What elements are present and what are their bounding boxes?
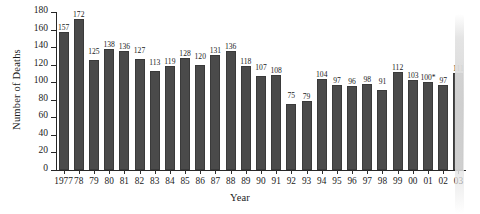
x-tick — [261, 170, 262, 174]
bar-value-label: 100* — [420, 73, 435, 82]
x-tick-label: 91 — [272, 176, 281, 186]
y-tick-label: 60 — [39, 110, 49, 120]
y-tick: 0 — [51, 170, 56, 171]
bar-value-label: 131 — [210, 46, 221, 55]
bar-value-label: 96 — [348, 77, 356, 86]
y-axis-line — [56, 12, 57, 170]
bar-value-label: 112 — [392, 63, 403, 72]
x-tick — [185, 170, 186, 174]
x-tick-label: 00 — [408, 176, 417, 186]
bar: 120 — [195, 65, 205, 170]
bar-value-label: 113 — [149, 58, 160, 67]
bar-value-label: 75 — [288, 91, 296, 100]
x-tick — [200, 170, 201, 174]
bar: 75 — [286, 104, 296, 170]
bar-value-label: 98 — [363, 75, 371, 84]
plot-area: 020406080100120140160180 157172125138136… — [56, 12, 466, 170]
x-tick-label: 85 — [180, 176, 189, 186]
bar-value-label: 157 — [58, 23, 69, 32]
bar-value-label: 97 — [439, 76, 447, 85]
x-tick-label: 1977 — [54, 176, 73, 186]
x-tick-label: 86 — [196, 176, 205, 186]
x-tick-label: 97 — [363, 176, 372, 186]
x-tick-label: 96 — [347, 176, 356, 186]
bar: 96 — [347, 86, 357, 170]
x-tick — [398, 170, 399, 174]
x-tick — [367, 170, 368, 174]
x-tick — [337, 170, 338, 174]
bar-value-label: 104 — [316, 70, 327, 79]
bar: 172 — [74, 19, 84, 170]
y-tick-label: 180 — [34, 5, 48, 15]
bar-value-label: 107 — [255, 63, 266, 72]
x-tick — [124, 170, 125, 174]
x-tick-label: 98 — [378, 176, 387, 186]
x-tick-label: 87 — [211, 176, 220, 186]
x-tick — [170, 170, 171, 174]
bar-value-label: 127 — [134, 46, 145, 55]
x-tick-label: 90 — [256, 176, 265, 186]
bar-value-label: 91 — [379, 77, 387, 86]
bar: 125 — [89, 60, 99, 170]
x-tick-label: 82 — [135, 176, 144, 186]
bar-value-label: 125 — [88, 47, 99, 56]
x-tick — [64, 170, 65, 174]
y-tick: 180 — [51, 12, 56, 13]
x-tick — [352, 170, 353, 174]
x-tick-label: 80 — [104, 176, 113, 186]
y-tick: 140 — [51, 47, 56, 48]
bar-value-label: 172 — [73, 10, 84, 19]
y-tick-label: 160 — [34, 23, 48, 33]
y-tick: 40 — [51, 135, 56, 136]
bar-value-label: 120 — [195, 52, 206, 61]
x-tick — [155, 170, 156, 174]
x-tick-label: 81 — [120, 176, 129, 186]
bar: 119 — [165, 66, 175, 170]
x-tick — [428, 170, 429, 174]
x-tick-label: 89 — [241, 176, 250, 186]
bar: 118 — [241, 66, 251, 170]
y-tick: 120 — [51, 65, 56, 66]
x-tick — [413, 170, 414, 174]
bar-value-label: 103 — [407, 71, 418, 80]
bar: 127 — [135, 59, 145, 170]
y-tick-label: 100 — [34, 75, 48, 85]
x-tick-label: 83 — [150, 176, 159, 186]
bar-value-label: 136 — [119, 42, 130, 51]
x-axis-title: Year — [0, 192, 480, 203]
bar: 97 — [332, 85, 342, 170]
bar-value-label: 118 — [240, 57, 251, 66]
x-tick — [246, 170, 247, 174]
bar-chart-figure: Number of Deaths 02040608010012014016018… — [0, 0, 480, 214]
bar-value-label: 119 — [164, 57, 175, 66]
x-tick — [322, 170, 323, 174]
bar: 107 — [256, 76, 266, 170]
y-tick-label: 20 — [39, 145, 49, 155]
y-tick-label: 80 — [39, 93, 49, 103]
bar: 104 — [317, 79, 327, 170]
bar-value-label: 138 — [103, 40, 114, 49]
y-tick-label: 0 — [43, 163, 48, 173]
bar: 98 — [362, 84, 372, 170]
y-tick: 160 — [51, 30, 56, 31]
x-tick-label: 88 — [226, 176, 235, 186]
y-axis-title: Number of Deaths — [11, 30, 22, 150]
x-tick — [94, 170, 95, 174]
x-tick — [443, 170, 444, 174]
bar: 91 — [377, 90, 387, 170]
x-tick-label: 78 — [74, 176, 83, 186]
bar: 79 — [302, 101, 312, 170]
bar: 138 — [104, 49, 114, 170]
bar-value-label: 136 — [225, 42, 236, 51]
bar-value-label: 111 — [453, 64, 464, 73]
x-tick-label: 01 — [423, 176, 432, 186]
x-tick-label: 03 — [454, 176, 463, 186]
x-tick — [276, 170, 277, 174]
x-tick-label: 79 — [89, 176, 98, 186]
bar-value-label: 79 — [303, 92, 311, 101]
x-tick — [382, 170, 383, 174]
y-tick: 80 — [51, 100, 56, 101]
bar: 136 — [119, 51, 129, 170]
y-tick: 100 — [51, 82, 56, 83]
x-tick-label: 93 — [302, 176, 311, 186]
